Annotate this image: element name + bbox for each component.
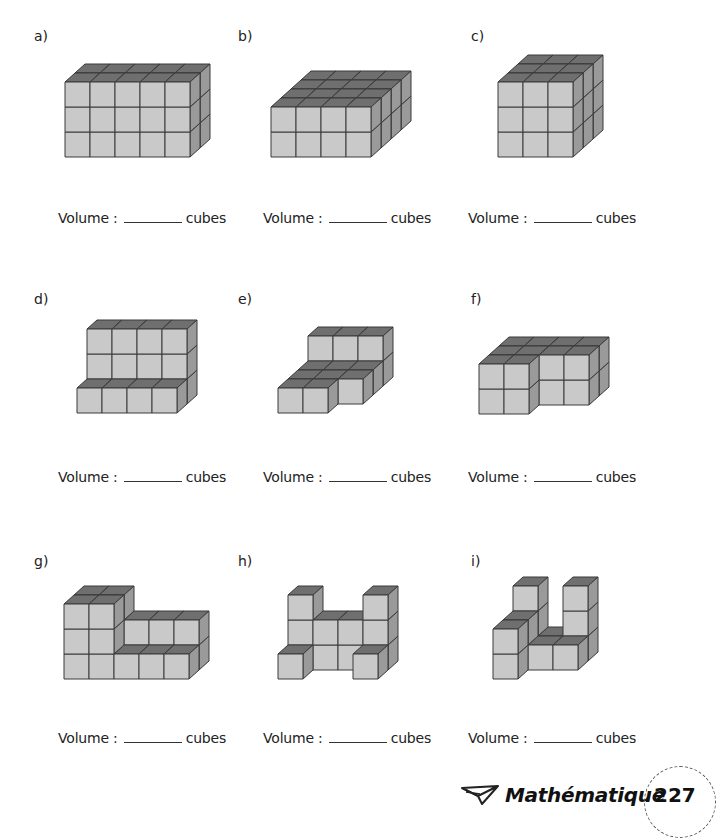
volume-answer-a: Volume :cubes [58,210,226,226]
volume-blank-field[interactable] [124,210,182,223]
volume-blank-field[interactable] [329,210,387,223]
volume-unit: cubes [391,469,431,485]
figure-c [498,55,603,157]
volume-label: Volume : [58,730,118,746]
volume-label: Volume : [263,730,323,746]
exercise-label-i: i) [471,553,480,569]
volume-label: Volume : [58,469,118,485]
subject-title: Mathématique [505,783,665,807]
exercise-label-g: g) [34,553,48,569]
exercise-label-h: h) [238,553,252,569]
volume-unit: cubes [391,210,431,226]
figure-e [278,327,393,413]
volume-label: Volume : [468,730,528,746]
volume-answer-g: Volume :cubes [58,730,226,746]
volume-blank-field[interactable] [124,730,182,743]
volume-label: Volume : [468,469,528,485]
volume-answer-e: Volume :cubes [263,469,431,485]
exercise-label-d: d) [34,291,48,307]
volume-unit: cubes [596,730,636,746]
volume-blank-field[interactable] [534,210,592,223]
volume-label: Volume : [468,210,528,226]
figure-g [64,586,209,679]
figure-d [77,320,197,413]
exercise-label-a: a) [34,28,48,44]
paper-plane-icon [460,784,500,812]
volume-blank-field[interactable] [124,469,182,482]
volume-answer-f: Volume :cubes [468,469,636,485]
volume-answer-c: Volume :cubes [468,210,636,226]
figure-a [65,64,210,157]
exercise-label-c: c) [471,28,484,44]
figure-f [479,337,609,414]
volume-unit: cubes [186,730,226,746]
exercise-label-b: b) [238,28,252,44]
volume-blank-field[interactable] [534,469,592,482]
exercise-label-e: e) [238,291,252,307]
volume-answer-h: Volume :cubes [263,730,431,746]
volume-unit: cubes [596,210,636,226]
volume-answer-b: Volume :cubes [263,210,431,226]
volume-answer-i: Volume :cubes [468,730,636,746]
figure-i [493,577,598,679]
volume-label: Volume : [263,210,323,226]
volume-unit: cubes [596,469,636,485]
exercise-label-f: f) [471,291,481,307]
volume-blank-field[interactable] [329,469,387,482]
volume-blank-field[interactable] [534,730,592,743]
figure-b [271,71,411,157]
volume-label: Volume : [58,210,118,226]
volume-label: Volume : [263,469,323,485]
figure-h [278,586,398,679]
volume-unit: cubes [186,210,226,226]
volume-answer-d: Volume :cubes [58,469,226,485]
volume-unit: cubes [186,469,226,485]
volume-blank-field[interactable] [329,730,387,743]
volume-unit: cubes [391,730,431,746]
page-number: 227 [654,783,696,807]
